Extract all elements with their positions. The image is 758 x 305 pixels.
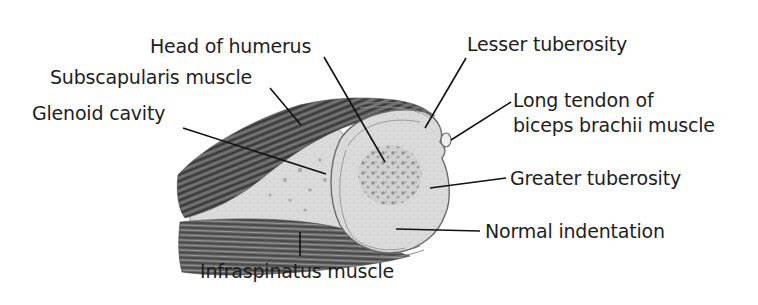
- label-normal-indentation: Normal indentation: [485, 219, 665, 243]
- biceps-tendon-shape: [441, 133, 451, 147]
- label-long-tendon-line1: Long tendon of: [513, 88, 653, 112]
- label-subscapularis-muscle: Subscapularis muscle: [50, 65, 252, 89]
- leader-lesser-tuberosity: [425, 58, 466, 128]
- leader-long-tendon: [451, 102, 511, 140]
- anatomy-diagram: Head of humerus Subscapularis muscle Gle…: [0, 0, 758, 305]
- label-greater-tuberosity: Greater tuberosity: [510, 166, 681, 190]
- label-long-tendon-line2: biceps brachii muscle: [513, 113, 715, 137]
- label-infraspinatus-muscle: Infraspinatus muscle: [200, 259, 394, 283]
- label-head-of-humerus: Head of humerus: [150, 34, 311, 58]
- label-glenoid-cavity: Glenoid cavity: [32, 101, 165, 125]
- label-lesser-tuberosity: Lesser tuberosity: [467, 32, 627, 56]
